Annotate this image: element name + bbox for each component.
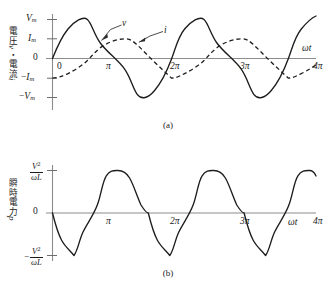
panel-a-xlabel-4pi: 4π	[313, 62, 323, 72]
panel-b-xlabel-4pi-text: 4π	[313, 216, 323, 226]
panel-b-xlabel-2pi: 2π	[170, 217, 180, 227]
panel-b-caption: (b)	[0, 268, 336, 278]
panel-b-xlabel-2pi-text: 2π	[170, 216, 180, 226]
panel-b-x-axis-label-text: ωt	[288, 217, 297, 227]
panel-a-y-title-i: i	[7, 78, 17, 81]
panel-b-ylabel-neg: − V2 ωL	[30, 246, 43, 267]
panel-a-xlabel-4pi-text: 4π	[313, 61, 323, 71]
panel-a-curve-label-i: i	[164, 26, 167, 36]
panel-a-xlabel-pi-text: π	[106, 61, 111, 71]
panel-a-curve-label-i-text: i	[164, 25, 167, 35]
panel-b-ylabel-pos-num-sup: 2	[37, 160, 40, 167]
panel-a-xlabel-0: 0	[57, 62, 62, 72]
panel-a-ylabel-neg-im: −Im	[21, 73, 34, 83]
panel-b-ylabel-neg-sign: −	[24, 252, 29, 261]
panel-a-y-title-part1: 電圧	[7, 26, 17, 45]
panel-a-ylabel-neg-vm: −Vm	[19, 92, 35, 102]
figure-root: 電圧v・電流i Vm Im 0 −Im −Vm 0 π 2π 3π 4π ωt …	[0, 0, 336, 289]
panel-b-y-axis-title: 瞬時電力p	[6, 178, 17, 221]
panel-a-caption: (a)	[0, 120, 336, 130]
panel-b-xlabel-3pi: 3π	[240, 217, 250, 227]
panel-a-ylabel-neg-im-sub: m	[30, 75, 35, 82]
panel-a-y-title-sep: ・	[7, 50, 17, 60]
panel-b-ylabel-neg-den: ωL	[30, 259, 43, 268]
panel-a-ylabel-zero-main: 0	[33, 52, 38, 62]
panel-a-ylabel-vm-sub: m	[32, 16, 37, 23]
panel-b-ylabel-pos-num: V2	[30, 161, 43, 172]
panel-a-ylabel-im-sub: m	[31, 36, 36, 43]
panel-a-xlabel-0-text: 0	[57, 61, 62, 71]
panel-a-y-axis-title: 電圧v・電流i	[6, 26, 17, 81]
panel-b-xlabel-pi-text: π	[106, 216, 111, 226]
panel-a-leader-i-arrow	[139, 38, 145, 43]
panel-b-x-axis-label: ωt	[288, 218, 297, 228]
panel-a-ylabel-vm: Vm	[26, 14, 37, 24]
panel-a-leader-v-arrow	[102, 34, 108, 41]
panel-b-caption-text: (b)	[163, 268, 174, 278]
panel-b-xlabel-3pi-text: 3π	[240, 216, 250, 226]
panel-b-ylabel-pos: V2 ωL	[30, 161, 43, 182]
panel-a-curve-label-v: v	[122, 19, 126, 29]
panel-b-ylabel-zero-text: 0	[33, 206, 38, 216]
panel-a-ylabel-im: Im	[28, 34, 36, 44]
panel-a-x-axis-label-text: ωt	[302, 43, 311, 53]
panel-a-y-title-part2: 電流	[7, 59, 17, 78]
panel-b-ylabel-pos-den: ωL	[30, 174, 43, 183]
panel-b-ylabel-neg-num: V2	[30, 246, 43, 257]
panel-b-y-title-part1: 瞬時電力	[7, 178, 17, 216]
panel-a-xlabel-pi: π	[106, 62, 111, 72]
panel-b-xlabel-4pi: 4π	[313, 217, 323, 227]
panel-a-xlabel-2pi: 2π	[170, 62, 180, 72]
panel-a-ylabel-zero: 0	[33, 53, 38, 63]
panel-a-xlabel-3pi: 3π	[240, 62, 250, 72]
panel-a-xlabel-3pi-text: 3π	[240, 61, 250, 71]
panel-b-ylabel-zero: 0	[33, 207, 38, 217]
panel-b-y-title-p: p	[7, 216, 17, 221]
panel-b-xlabel-pi: π	[106, 217, 111, 227]
panel-a-ylabel-neg-vm-sub: m	[30, 94, 35, 101]
panel-b-ylabel-neg-num-sup: 2	[37, 245, 40, 252]
panel-a-caption-text: (a)	[163, 120, 173, 130]
panel-a-x-axis-label: ωt	[302, 44, 311, 54]
panel-a-curve-label-v-text: v	[122, 18, 126, 28]
panel-a-xlabel-2pi-text: 2π	[170, 61, 180, 71]
panel-a-curve-v	[53, 16, 317, 98]
